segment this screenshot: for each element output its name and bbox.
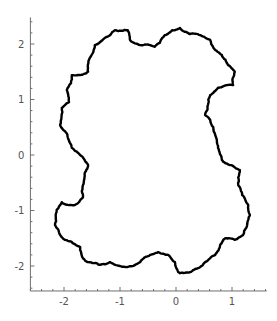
y-tick-label: -2 (14, 261, 24, 272)
y-tick-label: 1 (18, 94, 24, 105)
x-tick-label: 0 (173, 296, 179, 307)
y-tick-label: 0 (18, 150, 24, 161)
y-axis-ticks: -2-1012 (14, 22, 34, 288)
x-axis-ticks: -2-101 (30, 287, 265, 307)
y-tick-label: -1 (14, 205, 24, 216)
fractal-curve (55, 28, 250, 273)
x-tick-label: -2 (59, 296, 69, 307)
y-tick-label: 2 (18, 39, 24, 50)
x-tick-label: 1 (229, 296, 235, 307)
x-tick-label: -1 (115, 296, 125, 307)
curve-path (55, 28, 250, 273)
plot-area: -2-101 -2-1012 (0, 0, 277, 321)
